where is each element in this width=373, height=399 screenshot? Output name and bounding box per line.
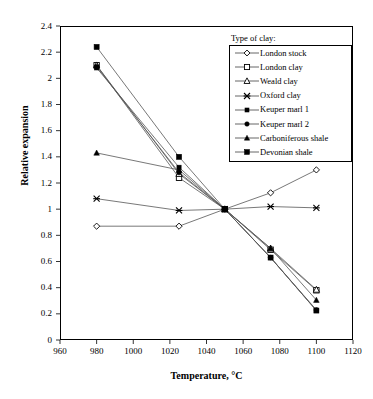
y-tick-label: 2.2: [18, 48, 52, 57]
y-tick-label: 0.2: [18, 309, 52, 318]
legend-label: Weald clay: [260, 77, 298, 86]
legend-marker-icon: [234, 74, 260, 88]
legend-label: London clay: [260, 63, 303, 72]
x-tick-label: 960: [40, 347, 80, 356]
chart-figure: 00.20.40.60.811.21.41.61.822.22.4 960980…: [0, 0, 373, 399]
legend-item: Oxford clay: [230, 89, 351, 103]
legend-marker-icon: [234, 131, 260, 145]
legend-item: Keuper marl 1: [230, 103, 351, 117]
legend-label: Keuper marl 2: [260, 120, 309, 129]
legend-item: Carboniferous shale: [230, 131, 351, 145]
legend-label: London stock: [260, 49, 307, 58]
y-tick-label: 0.4: [18, 283, 52, 292]
legend-marker-icon: [234, 60, 260, 74]
x-tick-label: 1000: [113, 347, 153, 356]
x-tick-label: 1100: [296, 347, 336, 356]
legend-label: Oxford clay: [260, 91, 301, 100]
legend-item: London stock: [230, 46, 351, 60]
y-tick-label: 0.6: [18, 257, 52, 266]
legend-label: Carboniferous shale: [260, 134, 328, 143]
x-tick-label: 1020: [150, 347, 190, 356]
y-axis-title: Relative expansion: [19, 76, 30, 216]
legend-label: Keuper marl 1: [260, 105, 309, 114]
x-tick-label: 1080: [260, 347, 300, 356]
x-axis-title: Temperature, °C: [60, 370, 353, 381]
x-tick-label: 1060: [223, 347, 263, 356]
legend: London stockLondon clayWeald clayOxford …: [229, 45, 352, 162]
series-markers: [94, 167, 320, 229]
legend-marker-icon: [234, 145, 260, 159]
x-tick-label: 1040: [187, 347, 227, 356]
x-tick-label: 1120: [333, 347, 373, 356]
y-tick-label: 0: [18, 336, 52, 345]
legend-item: Devonian shale: [230, 145, 351, 159]
legend-marker-icon: [234, 89, 260, 103]
y-tick-label: 2.4: [18, 22, 52, 31]
legend-label: Devonian shale: [260, 148, 313, 157]
legend-marker-icon: [234, 103, 260, 117]
x-tick-label: 980: [77, 347, 117, 356]
legend-title: Type of clay:: [231, 33, 276, 43]
y-tick-label: 0.8: [18, 231, 52, 240]
legend-item: Keuper marl 2: [230, 117, 351, 131]
legend-item: Weald clay: [230, 74, 351, 88]
legend-marker-icon: [234, 46, 260, 60]
legend-item: London clay: [230, 60, 351, 74]
legend-marker-icon: [234, 117, 260, 131]
series-markers: [93, 196, 320, 214]
